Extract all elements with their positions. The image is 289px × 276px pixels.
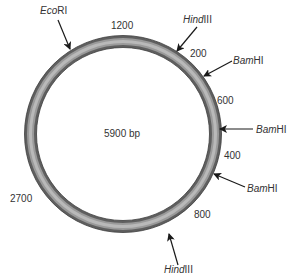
fragment-size-200: 200 <box>190 48 207 59</box>
site-label-bamhi-1: BamHI <box>233 55 264 66</box>
site-label-hindiii-top: HindIII <box>183 14 212 25</box>
fragment-size-1200: 1200 <box>111 20 133 31</box>
fragment-size-400: 400 <box>224 150 241 161</box>
plasmid-map <box>0 0 289 276</box>
bamhi-3-arrow <box>214 174 245 187</box>
fragment-size-800: 800 <box>194 209 211 220</box>
plasmid-size-label: 5900 bp <box>104 128 140 139</box>
hindiii-bottom-arrow <box>169 234 178 265</box>
ecori-arrow <box>58 20 70 49</box>
site-label-ecori: EcoRI <box>40 5 67 16</box>
site-label-hindiii-bottom: HindIII <box>164 264 193 275</box>
bamhi-1-arrow <box>204 61 232 76</box>
fragment-size-2700: 2700 <box>10 193 32 204</box>
site-label-bamhi-2: BamHI <box>256 124 287 135</box>
site-label-bamhi-3: BamHI <box>247 183 278 194</box>
fragment-size-600: 600 <box>217 95 234 106</box>
